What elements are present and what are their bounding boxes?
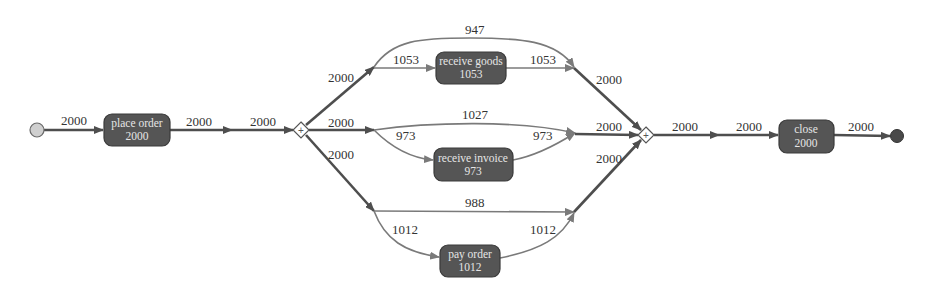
activity-name: close (794, 123, 818, 135)
edge-dot-to-split-gateway: 2000 (232, 114, 293, 130)
gateway-plus-icon: + (298, 125, 304, 136)
activity-name: place order (111, 117, 163, 130)
edge-start-to-place-order: 2000 (44, 113, 103, 130)
edge-label: 947 (465, 22, 485, 37)
edge-label: 2000 (596, 72, 622, 87)
edge-close-to-end: 2000 (834, 119, 890, 136)
edge-split-to-middle-branch: 2000 (309, 115, 374, 130)
edge-label: 2000 (186, 114, 212, 129)
edge-to-receive-goods: 1053 (374, 52, 435, 68)
edge-lower-join-to-join-gateway: 2000 (574, 140, 641, 212)
edge-label: 1012 (530, 222, 556, 237)
edge-label: 1027 (462, 107, 489, 122)
edge-middle-join-to-join-gateway: 2000 (575, 119, 638, 135)
edge-label: 988 (465, 195, 485, 210)
edge-label: 2000 (61, 113, 87, 128)
edge-from-pay-order: 1012 (500, 213, 574, 258)
edge-place-order-to-dot: 2000 (170, 114, 232, 130)
gateway-plus-icon: + (643, 130, 649, 141)
edge-from-receive-invoice: 973 (513, 128, 575, 160)
edge-skip-pay-order: 988 (374, 195, 574, 212)
activity-receive-goods[interactable]: receive goods 1053 (436, 52, 506, 84)
activity-name: pay order (448, 248, 492, 261)
edge-split-to-lower-branch: 2000 (306, 135, 374, 211)
activity-close[interactable]: close 2000 (779, 120, 834, 153)
activity-place-order[interactable]: place order 2000 (104, 114, 170, 146)
activity-count: 2000 (126, 130, 149, 142)
edge-label: 973 (396, 128, 416, 143)
edge-label: 2000 (848, 119, 874, 134)
edge-label: 2000 (328, 147, 354, 162)
edge-label: 973 (533, 128, 553, 143)
edge-to-pay-order: 1012 (374, 211, 439, 257)
edge-label: 1012 (392, 222, 418, 237)
activity-pay-order[interactable]: pay order 1012 (440, 245, 500, 277)
edge-dot-to-close: 2000 (719, 119, 778, 135)
activity-receive-invoice[interactable]: receive invoice 973 (434, 148, 513, 181)
edge-from-receive-goods: 1053 (506, 52, 574, 68)
activity-count: 1053 (460, 68, 483, 80)
edge-label: 1053 (530, 52, 556, 67)
edge-label: 2000 (596, 151, 622, 166)
edge-join-gateway-to-dot: 2000 (654, 119, 719, 135)
activity-count: 2000 (795, 137, 818, 149)
edge-label: 2000 (328, 115, 354, 130)
start-event[interactable] (30, 123, 44, 137)
edge-label: 2000 (250, 114, 276, 129)
end-event[interactable] (891, 130, 904, 143)
edge-label: 2000 (672, 119, 698, 134)
edge-label: 2000 (596, 119, 622, 134)
edge-label: 2000 (736, 119, 762, 134)
edge-label: 1053 (393, 52, 419, 67)
activity-name: receive goods (439, 55, 503, 68)
process-diagram: 2000 2000 2000 2000 2000 2000 1053 1053 … (0, 0, 933, 288)
activity-count: 973 (464, 165, 482, 177)
edge-to-receive-invoice: 973 (374, 128, 433, 160)
activity-name: receive invoice (438, 152, 508, 164)
edge-label: 2000 (328, 70, 354, 85)
activity-count: 1012 (459, 261, 482, 273)
